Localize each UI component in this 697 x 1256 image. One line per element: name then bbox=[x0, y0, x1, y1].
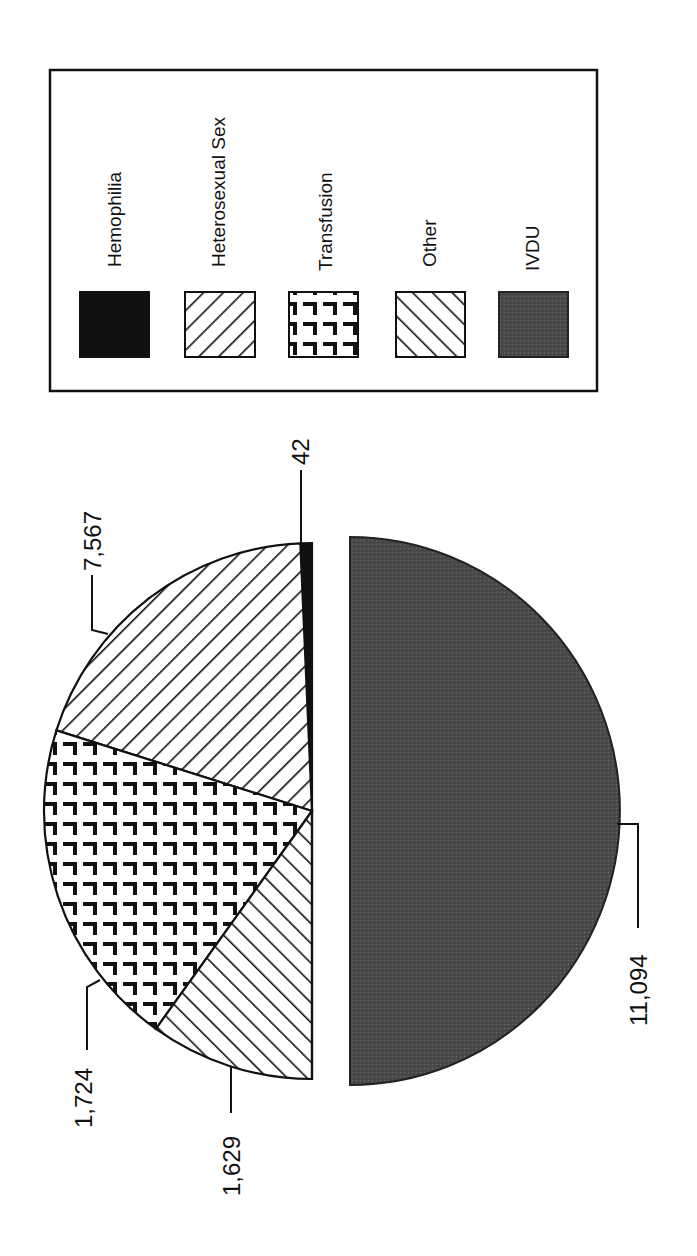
legend: Hemophilia Heterosexual Sex Transfusion … bbox=[50, 70, 597, 391]
value-label-transfusion: 1,724 bbox=[70, 980, 100, 1128]
slice-ivdu bbox=[350, 537, 620, 1085]
legend-label-ivdu: IVDU bbox=[522, 226, 543, 271]
value-label-other: 1,629 bbox=[218, 1067, 245, 1196]
legend-label-hemophilia: Hemophilia bbox=[104, 172, 125, 267]
value-label-hetero: 7,567 bbox=[79, 511, 108, 634]
svg-text:7,567: 7,567 bbox=[79, 511, 106, 571]
legend-swatch-ivdu bbox=[499, 292, 568, 357]
svg-text:42: 42 bbox=[287, 438, 314, 465]
value-label-ivdu: 11,094 bbox=[617, 824, 652, 1026]
svg-text:1,724: 1,724 bbox=[70, 1068, 97, 1128]
legend-label-hetero: Heterosexual Sex bbox=[208, 117, 229, 267]
pie-chart: Hemophilia Heterosexual Sex Transfusion … bbox=[0, 0, 697, 1256]
legend-swatch-other bbox=[396, 292, 465, 357]
svg-text:11,094: 11,094 bbox=[625, 954, 652, 1026]
legend-swatch-transfusion bbox=[289, 292, 358, 357]
legend-swatch-hemophilia bbox=[80, 292, 149, 357]
svg-text:1,629: 1,629 bbox=[218, 1136, 245, 1196]
legend-label-other: Other bbox=[419, 219, 440, 267]
value-label-hemophilia: 42 bbox=[287, 438, 314, 543]
legend-label-transfusion: Transfusion bbox=[315, 172, 336, 271]
pie-left-half bbox=[44, 543, 312, 1079]
legend-swatch-hetero bbox=[185, 292, 255, 357]
